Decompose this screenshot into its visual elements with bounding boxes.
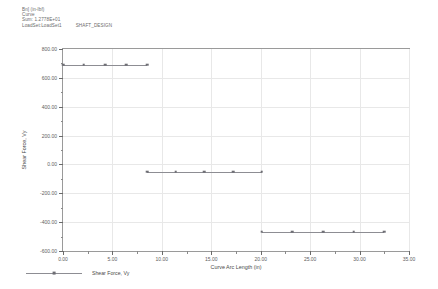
series-data-point [383,230,386,233]
chart-header-metadata: Bn] (in-lbf) Curve Sum: 1.2778E+01 LoadS… [22,7,112,28]
y-axis-minor-tick [61,150,64,151]
y-gridline [63,193,409,194]
x-axis-tick [162,251,163,255]
x-axis-tick-label: 10.00 [156,256,169,262]
series-data-point [82,64,85,67]
y-axis-tick [59,136,63,137]
x-axis-tick-label: 20.00 [254,256,267,262]
x-axis-tick-label: 0.00 [58,256,68,262]
x-gridline [112,49,113,251]
y-gridline [63,107,409,108]
y-axis-tick [59,222,63,223]
x-gridline [360,49,361,251]
y-axis-minor-tick [61,92,64,93]
header-design-name: SHAFT_DESIGN [76,23,112,28]
series-data-point [62,64,65,67]
y-axis-tick [59,164,63,165]
x-axis-tick [261,251,262,255]
series-data-point [104,64,107,67]
chart-legend: Shear Force, Vy [26,270,129,276]
y-axis-tick [59,193,63,194]
series-data-point [125,64,128,67]
x-gridline [409,49,410,251]
series-line-segment [204,172,233,173]
series-data-point [260,230,263,233]
y-axis-minor-tick [61,208,64,209]
y-axis-tick-label: 600.00 [42,75,57,81]
y-axis-tick-label: 200.00 [42,133,57,139]
y-axis-tick-label: 800.00 [42,46,57,52]
y-gridline [63,136,409,137]
x-gridline [261,49,262,251]
y-gridline [63,222,409,223]
header-loadset-value: LoadSet:LoadSet1 [22,23,62,28]
x-axis-minor-tick [88,251,89,254]
legend-marker-icon [53,272,56,275]
series-line-segment [262,232,293,233]
series-data-point [174,170,177,173]
series-line-segment [323,232,354,233]
y-axis-tick-label: -200.00 [40,190,57,196]
header-line-loadset: LoadSet:LoadSet1SHAFT_DESIGN [22,23,112,28]
x-axis-tick [360,251,361,255]
x-axis-tick [310,251,311,255]
y-axis-minor-tick [61,179,64,180]
y-axis-title: Shear Force, Vy [21,131,27,170]
x-axis-tick [211,251,212,255]
x-gridline [211,49,212,251]
y-axis-minor-tick [61,237,64,238]
y-axis-tick-label: -600.00 [40,248,57,254]
series-data-point [291,230,294,233]
y-axis-tick [59,78,63,79]
series-line-segment [105,65,126,66]
x-gridline [162,49,163,251]
x-axis-title: Curve Arc Length (in) [211,264,262,270]
series-data-point [322,230,325,233]
x-axis-minor-tick [384,251,385,254]
x-axis-minor-tick [285,251,286,254]
x-axis-minor-tick [137,251,138,254]
x-axis-minor-tick [236,251,237,254]
legend-label: Shear Force, Vy [92,270,129,276]
x-axis-tick-label: 35.00 [403,256,416,262]
series-data-point [203,170,206,173]
y-axis-tick [59,251,63,252]
series-line-segment [176,172,205,173]
series-data-point [146,64,149,67]
series-line-segment [84,65,105,66]
y-axis-tick [59,49,63,50]
y-axis-minor-tick [61,121,64,122]
series-data-point [352,230,355,233]
x-axis-tick-label: 25.00 [304,256,317,262]
y-axis-tick-label: -400.00 [40,219,57,225]
x-axis-tick [112,251,113,255]
series-data-point [260,170,263,173]
chart-window: Bn] (in-lbf) Curve Sum: 1.2778E+01 LoadS… [0,0,438,289]
legend-line-swatch [26,273,82,274]
y-axis-tick [59,107,63,108]
y-axis-tick-label: 400.00 [42,104,57,110]
series-line-segment [233,172,262,173]
series-line-segment [292,232,323,233]
series-line-segment [147,172,176,173]
series-line-segment [354,232,385,233]
y-axis-tick-label: 0.00 [47,161,57,167]
y-gridline [63,164,409,165]
x-axis-tick [409,251,410,255]
plot-area: 0.005.0010.0015.0020.0025.0030.0035.00-6… [62,48,410,252]
x-axis-tick-label: 30.00 [353,256,366,262]
x-axis-minor-tick [187,251,188,254]
x-axis-tick-label: 5.00 [108,256,118,262]
x-axis-tick-label: 15.00 [205,256,218,262]
series-line-segment [63,65,84,66]
x-gridline [310,49,311,251]
series-line-segment [126,65,147,66]
x-axis-minor-tick [335,251,336,254]
series-data-point [146,170,149,173]
x-axis-tick [63,251,64,255]
series-data-point [232,170,235,173]
y-gridline [63,78,409,79]
